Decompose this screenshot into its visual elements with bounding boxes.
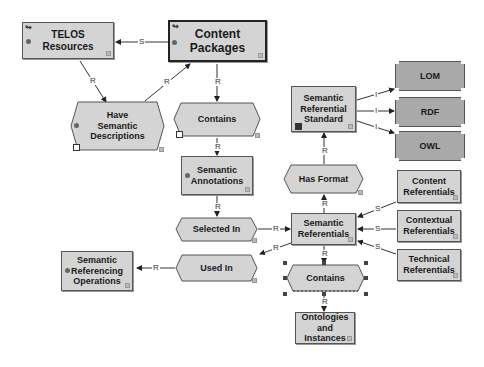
node-lom[interactable]: LOM [395, 61, 465, 91]
resize-icon [258, 53, 263, 58]
node-label: Contains [198, 114, 237, 125]
node-selected-in[interactable]: Selected In [175, 217, 258, 242]
edge-label: S [138, 38, 145, 46]
resize-icon [358, 190, 363, 195]
node-label: Has Format [299, 174, 349, 185]
node-label: RDF [421, 107, 440, 118]
resize-icon [453, 195, 458, 200]
node-contains-bottom[interactable]: Contains [286, 264, 365, 292]
link-icon: ↬ [25, 24, 32, 32]
port-icon [172, 40, 177, 45]
edge-label: S [374, 225, 381, 233]
node-label: Semantic Referential Standard [300, 93, 347, 125]
node-contains-top[interactable]: Contains [173, 102, 261, 137]
node-label: Semantic Referencing Operations [71, 255, 123, 287]
edge-label: R [272, 244, 280, 252]
resize-icon [453, 273, 458, 278]
selection-handle[interactable] [364, 292, 368, 296]
node-semantic-referential-standard[interactable]: Semantic Referential Standard [291, 86, 356, 132]
resize-icon [106, 51, 111, 56]
edge-label: I [374, 91, 378, 99]
edge-label: R [214, 78, 222, 86]
selection-handle[interactable] [283, 292, 287, 296]
edge-label: S [374, 205, 381, 213]
node-label: Technical Referentials [403, 254, 455, 276]
port-icon [26, 39, 31, 44]
selection-handle[interactable] [322, 292, 326, 296]
node-ontologies-and-instances[interactable]: Ontologies and Instances [295, 312, 355, 344]
port-icon [74, 123, 79, 128]
node-semantic-annotations[interactable]: Semantic Annotations [181, 156, 253, 195]
node-label: Content Packages [190, 27, 245, 56]
link-icon: ↬ [172, 23, 179, 31]
resize-icon [252, 278, 257, 283]
resize-icon [245, 187, 250, 192]
node-label: Have Semantic Descriptions [90, 110, 145, 142]
node-contextual-referentials[interactable]: Contextual Referentials [397, 210, 461, 242]
resize-icon [255, 133, 260, 138]
node-label: Used In [200, 263, 233, 274]
node-label: OWL [420, 141, 441, 152]
edge-label: S [374, 243, 381, 251]
subprocess-icon [73, 144, 80, 151]
node-label: LOM [420, 71, 440, 82]
edge-label: I [374, 123, 378, 131]
node-semantic-referentials[interactable]: Semantic Referentials [291, 213, 356, 245]
selection-handle[interactable] [283, 261, 287, 265]
edge-label: R [163, 78, 171, 86]
node-label: Semantic Annotations [191, 165, 244, 187]
selection-handle[interactable] [322, 261, 326, 265]
node-label: Semantic Referentials [298, 218, 350, 240]
node-label: Selected In [193, 224, 241, 235]
node-has-format[interactable]: Has Format [283, 164, 364, 194]
node-telos-resources[interactable]: ↬ TELOS Resources [22, 22, 114, 59]
node-owl[interactable]: OWL [395, 131, 465, 161]
attribute-icon [295, 123, 302, 130]
resize-icon [252, 238, 257, 243]
edge-label: R [321, 147, 329, 155]
node-content-referentials[interactable]: Content Referentials [397, 170, 461, 203]
node-used-in[interactable]: Used In [175, 254, 258, 282]
edge-label: R [321, 250, 329, 258]
edge-label: R [272, 225, 280, 233]
node-content-packages[interactable]: ↬ Content Packages [168, 20, 267, 62]
edge-label: R [152, 264, 160, 272]
node-label: Content Referentials [403, 176, 455, 198]
resize-icon [453, 234, 458, 239]
resize-icon [125, 283, 130, 288]
node-rdf[interactable]: RDF [395, 97, 465, 127]
subprocess-icon [176, 131, 183, 138]
node-label: Ontologies and Instances [296, 312, 354, 344]
resize-icon [347, 336, 352, 341]
node-label: Contextual Referentials [403, 215, 455, 237]
resize-icon [348, 237, 353, 242]
node-label: Contains [306, 273, 345, 284]
diagram-canvas[interactable]: S R R R R R R R R R R I I I S S S R R ↬ … [0, 0, 484, 367]
edge-label: R [214, 143, 222, 151]
resize-icon [348, 124, 353, 129]
edge-label: R [321, 200, 329, 208]
node-technical-referentials[interactable]: Technical Referentials [397, 249, 461, 281]
selection-handle[interactable] [364, 276, 368, 280]
node-have-semantic-descriptions[interactable]: Have Semantic Descriptions [70, 101, 165, 151]
port-icon [185, 173, 190, 178]
edge-label: I [374, 107, 378, 115]
port-icon [65, 268, 70, 273]
edge-label: R [214, 203, 222, 211]
selection-handle[interactable] [364, 261, 368, 265]
resize-icon [159, 147, 164, 152]
node-label: TELOS Resources [42, 29, 93, 53]
selection-handle[interactable] [283, 276, 287, 280]
edge-label: R [321, 298, 329, 306]
edge-label: R [89, 77, 97, 85]
node-semantic-referencing-operations[interactable]: Semantic Referencing Operations [61, 251, 133, 291]
